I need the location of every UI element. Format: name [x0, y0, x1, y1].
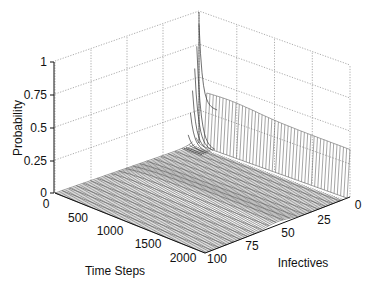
x-tick-2000: 2000: [170, 251, 197, 265]
y-tick-100: 100: [207, 252, 227, 266]
x-tick-1500: 1500: [135, 237, 162, 251]
z-tick-0.75: 0.75: [24, 88, 48, 102]
y-tick-75: 75: [245, 239, 259, 253]
y-tick-50: 50: [281, 226, 295, 240]
y-axis-label: Infectives: [278, 256, 329, 270]
z-tick-1: 1: [40, 55, 47, 69]
x-tick-500: 500: [68, 211, 88, 225]
z-axis-label: Probability: [11, 100, 25, 156]
surface-peak: [184, 12, 217, 155]
x-tick-0: 0: [43, 197, 50, 211]
surface-plot: 1 0.75 0.5 0.25 0 Probability 0 500 1000…: [0, 0, 370, 288]
z-axis: 1 0.75 0.5 0.25 0 Probability: [11, 55, 54, 200]
y-tick-0: 0: [355, 198, 362, 212]
z-tick-0.5: 0.5: [30, 121, 47, 135]
x-tick-1000: 1000: [97, 224, 124, 238]
surface-curtain: [204, 93, 350, 198]
x-axis-label: Time Steps: [85, 264, 145, 278]
y-tick-25: 25: [317, 213, 331, 227]
z-tick-0.25: 0.25: [24, 154, 48, 168]
